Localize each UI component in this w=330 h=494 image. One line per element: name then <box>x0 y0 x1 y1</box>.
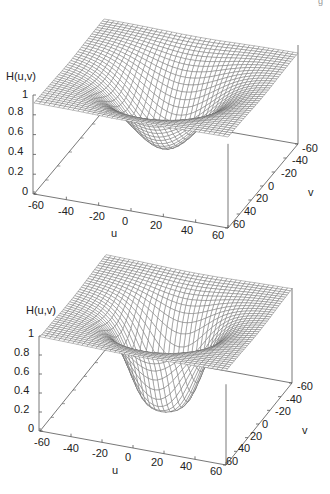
z-tick-0.2: 0.2 <box>14 404 29 415</box>
v-tick-20: 20 <box>250 431 262 442</box>
v-tick-neg40: -40 <box>286 394 302 405</box>
u-axis-title: u <box>112 465 118 476</box>
surface-plot-top-canvas <box>0 0 330 247</box>
z-tick-0.8: 0.8 <box>8 106 23 117</box>
v-tick-60: 60 <box>233 219 245 230</box>
u-tick-60: 60 <box>210 466 222 477</box>
v-tick-40: 40 <box>244 206 256 217</box>
u-axis-title: u <box>111 228 117 239</box>
surface-plot-top: H(u,v) 1 0.8 0.6 0.4 0.2 0 -60 -40 -20 0… <box>0 0 330 247</box>
z-tick-0: 0 <box>28 423 34 434</box>
v-tick-neg20: -20 <box>281 168 297 179</box>
surface-mesh <box>40 255 292 412</box>
u-tick-40: 40 <box>180 461 192 472</box>
v-tick-0: 0 <box>268 181 274 192</box>
v-tick-60: 60 <box>226 456 238 467</box>
u-tick-40: 40 <box>181 225 193 236</box>
u-tick-neg20: -20 <box>89 211 105 222</box>
u-tick-20: 20 <box>151 457 163 468</box>
v-axis-title: v <box>302 425 308 436</box>
v-tick-neg20: -20 <box>275 406 291 417</box>
u-tick-neg40: -40 <box>63 443 79 454</box>
v-tick-20: 20 <box>256 193 268 204</box>
u-tick-neg20: -20 <box>92 448 108 459</box>
z-axis-title: H(u,v) <box>6 71 36 82</box>
v-tick-neg60: -60 <box>302 143 318 154</box>
u-tick-neg40: -40 <box>58 206 74 217</box>
v-tick-40: 40 <box>238 443 250 454</box>
u-tick-0: 0 <box>122 216 128 227</box>
u-tick-neg60: -60 <box>34 437 50 448</box>
u-tick-0: 0 <box>125 452 131 463</box>
z-tick-0.8: 0.8 <box>14 347 29 358</box>
z-tick-1: 1 <box>28 328 34 339</box>
u-tick-60: 60 <box>212 230 224 241</box>
z-tick-0.4: 0.4 <box>8 146 23 157</box>
u-tick-neg60: -60 <box>28 200 44 211</box>
z-tick-0.2: 0.2 <box>8 166 23 177</box>
surface-plot-bottom: H(u,v) 1 0.8 0.6 0.4 0.2 0 -60 -40 -20 0… <box>0 247 330 494</box>
z-tick-0.6: 0.6 <box>14 366 29 377</box>
surface-mesh <box>34 19 298 149</box>
v-tick-neg60: -60 <box>297 381 313 392</box>
z-tick-0: 0 <box>22 186 28 197</box>
v-tick-neg40: -40 <box>292 155 308 166</box>
surface-plot-bottom-canvas <box>0 247 330 494</box>
z-tick-0.4: 0.4 <box>14 385 29 396</box>
v-tick-0: 0 <box>262 419 268 430</box>
z-axis-title: H(u,v) <box>26 305 56 316</box>
u-tick-20: 20 <box>150 220 162 231</box>
v-axis-title: v <box>308 187 314 198</box>
z-tick-0.6: 0.6 <box>8 126 23 137</box>
z-tick-1: 1 <box>22 89 28 100</box>
